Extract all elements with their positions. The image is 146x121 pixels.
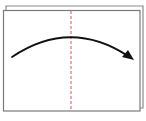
front-sheet <box>4 11 141 112</box>
fold-diagram <box>0 0 146 121</box>
